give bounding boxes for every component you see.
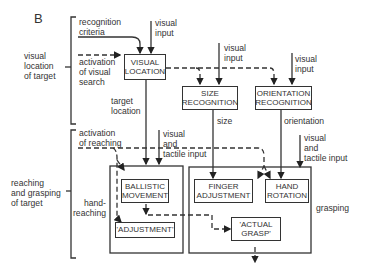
- orientation-recognition-box: ORIENTATION RECOGNITION: [255, 86, 312, 110]
- target-location-label: target location: [111, 96, 141, 116]
- activation-reaching-label: activation of reaching: [79, 128, 122, 148]
- panel-letter: B: [34, 11, 43, 26]
- activation-visual-search-label: activation of visual search: [79, 57, 115, 87]
- hand-rotation-box: HAND ROTATION: [265, 179, 309, 203]
- size-label: size: [217, 116, 232, 126]
- visual-location-box: VISUAL LOCATION: [124, 54, 166, 80]
- orientation-label: orientation: [284, 116, 324, 126]
- grasping-label: grasping: [316, 203, 349, 213]
- stage-reaching-grasping-label: reaching and grasping of target: [11, 178, 61, 208]
- size-recognition-box: SIZE RECOGNITION: [182, 86, 238, 110]
- stage-visual-location-label: visual location of target: [24, 51, 56, 81]
- visual-input-label-1: visual input: [155, 18, 177, 38]
- visual-tactile-label-1: visual and tactile input: [163, 129, 206, 159]
- visual-tactile-label-2: visual and tactile input: [304, 133, 347, 163]
- actual-grasp-box: 'ACTUAL GRASP': [231, 217, 281, 241]
- visual-input-label-3: visual input: [295, 54, 317, 74]
- ballistic-movement-box: BALLISTIC MOVEMENT: [121, 179, 169, 203]
- visual-input-label-2: visual input: [224, 43, 246, 63]
- adjustment-box: 'ADJUSTMENT': [115, 222, 175, 238]
- finger-adjustment-box: FINGER ADJUSTMENT: [194, 179, 253, 203]
- recognition-criteria-label: recognition criteria: [79, 17, 121, 37]
- hand-reaching-label: hand- reaching: [73, 198, 106, 218]
